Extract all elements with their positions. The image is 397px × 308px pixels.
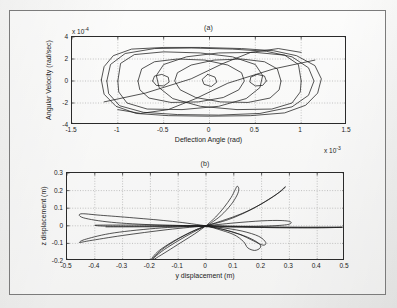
panel-b-x-tick-label: 0.3 <box>284 262 293 269</box>
panel-b-x-tick-label: 0 <box>203 262 207 269</box>
panel-b-x-tick-label: 0.5 <box>339 262 348 269</box>
data-curve-spike-down-left-2 <box>153 226 206 260</box>
panel-a-y-tick-label: -2 <box>54 99 68 106</box>
panel-b-x-tick-label: -0.3 <box>116 262 127 269</box>
data-curve-small-loop-left <box>153 74 170 86</box>
data-curve-crossing-diagonal-1 <box>104 49 301 102</box>
panel-b-title: (b) <box>66 160 344 167</box>
panel-b-y-tick-label: 0.2 <box>49 186 63 193</box>
panel-b-y-tick-label: 0.1 <box>49 204 63 211</box>
panel-b-svg <box>67 173 344 260</box>
panel-a-x-tick-label: 0 <box>207 126 211 133</box>
panel-a-y-tick-label: 4 <box>54 33 68 40</box>
panel-a-y-exponent: x 10-4 <box>72 26 89 35</box>
panel-a-y-tick-label: 0 <box>54 77 68 84</box>
panel-a-x-tick-label: -0.5 <box>157 126 168 133</box>
panel-a-y-axis-label: Angular Velocity (rad/sec) <box>45 36 52 124</box>
panel-b-y-axis-label: z displacement (m) <box>40 172 47 260</box>
panel-b-x-tick-label: -0.4 <box>88 262 99 269</box>
panel-a-y-tick-label: -4 <box>54 121 68 128</box>
panel-b-y-tick-label: 0.3 <box>49 169 63 176</box>
panel-a-y-tick-label: 2 <box>54 55 68 62</box>
figure-container: (a) x 10-4 x 10-3 Deflection Angle (rad)… <box>0 0 397 308</box>
panel-b-x-tick-label: -0.2 <box>144 262 155 269</box>
panel-a-title: (a) <box>71 24 346 31</box>
data-curve-inner-orbit-left <box>138 59 244 102</box>
panel-b-y-tick-label: -0.2 <box>49 257 63 264</box>
panel-b-x-tick-label: 0.2 <box>256 262 265 269</box>
panel-b-plot-area <box>66 172 344 260</box>
panel-a-plot-area <box>71 36 346 124</box>
panel-b-y-tick-label: 0 <box>49 221 63 228</box>
panel-b-y-tick-label: -0.1 <box>49 239 63 246</box>
data-curve-small-loop-right <box>250 74 267 86</box>
panel-a-y-exponent-power: -4 <box>84 26 88 32</box>
panel-b-x-tick-label: 0.4 <box>312 262 321 269</box>
panel-b-x-axis-label: y displacement (m) <box>66 272 344 279</box>
panel-a-svg <box>72 37 346 124</box>
panel-a-x-axis-label: Deflection Angle (rad) <box>71 136 346 143</box>
data-curve-crossing-diagonal-2 <box>118 60 315 113</box>
panel-a-x-exponent-power: -3 <box>336 145 340 151</box>
panel-a-y-exponent-base: x 10 <box>72 28 84 35</box>
data-curve-lobe-right-upper <box>206 220 291 226</box>
panel-b-x-tick-label: 0.1 <box>228 262 237 269</box>
panel-a-x-exponent: x 10-3 <box>324 145 341 154</box>
panel-b-x-tick-label: -0.1 <box>172 262 183 269</box>
panel-a-x-tick-label: 1.5 <box>341 126 350 133</box>
panel-a-x-tick-label: 0.5 <box>250 126 259 133</box>
data-curve-spike-up-right <box>206 187 285 226</box>
data-curve-inner-orbit-right <box>175 59 281 102</box>
panel-a-x-exponent-base: x 10 <box>324 147 336 154</box>
panel-a-x-tick-label: 1 <box>298 126 302 133</box>
panel-a-x-tick-label: -1 <box>114 126 120 133</box>
data-curve-lobe-left-upper <box>79 214 206 226</box>
